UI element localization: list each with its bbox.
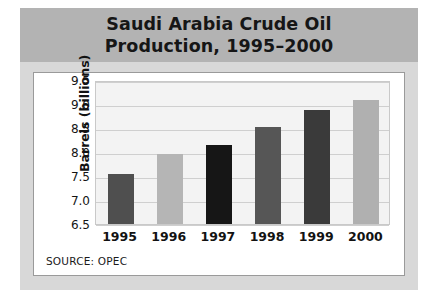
y-axis-tick-label: 8.5 [71, 122, 90, 136]
bars-layer [96, 82, 389, 224]
y-axis-tick-label: 6.5 [71, 218, 90, 232]
y-axis-tick-label: 9.0 [71, 98, 90, 112]
x-axis-tick-label: 1997 [195, 229, 241, 244]
bar-1999 [304, 110, 330, 224]
bar-1996 [157, 154, 183, 224]
page-title-line-1: Saudi Arabia Crude Oil [106, 13, 331, 35]
x-axis-tick-label: 1998 [244, 229, 290, 244]
page-title-line-2: Production, 1995–2000 [105, 35, 334, 57]
y-axis-tick-label: 7.0 [71, 194, 90, 208]
chart-page: Saudi Arabia Crude Oil Production, 1995–… [0, 0, 429, 299]
bar-1998 [255, 127, 281, 224]
y-axis-tick-label: 9.5 [71, 74, 90, 88]
y-axis-tick-label: 8.0 [71, 146, 90, 160]
y-axis-tick-label: 7.5 [71, 170, 90, 184]
x-axis-tick-labels: 199519961997199819992000 [95, 229, 390, 249]
bar-2000 [353, 100, 379, 224]
source-note: SOURCE: OPEC [46, 255, 127, 267]
x-axis-tick-label: 1996 [146, 229, 192, 244]
x-axis-tick-label: 1995 [97, 229, 143, 244]
bar-1995 [108, 174, 134, 224]
bar-1997 [206, 145, 232, 224]
plot-area [95, 81, 390, 225]
x-axis-tick-label: 2000 [342, 229, 388, 244]
chart-title-band: Saudi Arabia Crude Oil Production, 1995–… [20, 8, 418, 62]
chart-card: Barrels (billions) 9.59.08.58.07.57.06.5… [33, 72, 405, 276]
y-axis-tick-labels: 9.59.08.58.07.57.06.5 [58, 81, 90, 225]
gridline [96, 225, 389, 226]
x-axis-tick-label: 1999 [293, 229, 339, 244]
